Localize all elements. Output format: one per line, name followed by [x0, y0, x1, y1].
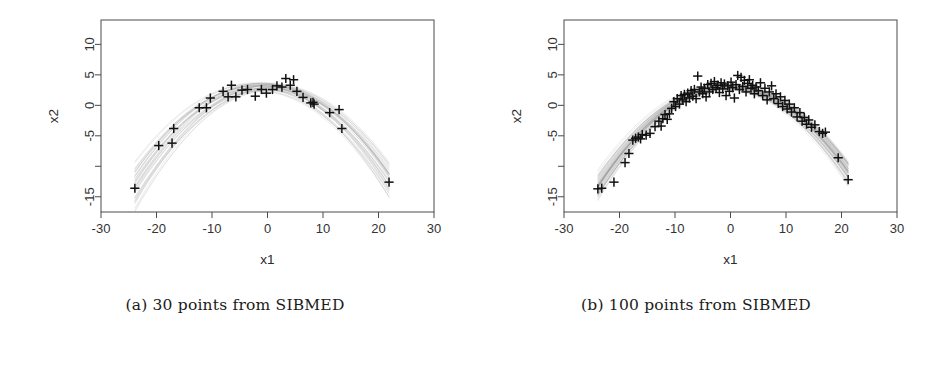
data-points — [130, 74, 393, 193]
caption-row: (a) 30 points from SIBMED (b) 100 points… — [0, 296, 933, 360]
y-axis: 1050-5-15 — [83, 37, 102, 206]
x-tick-label: 0 — [727, 221, 734, 236]
x-axis: -30-20-100102030 — [92, 212, 442, 236]
panel-b: -30-20-100102030x11050-5-15x2 — [463, 0, 929, 300]
y-tick-label: -5 — [546, 130, 561, 142]
fitted-curve — [135, 90, 389, 187]
y-tick-label: -5 — [83, 130, 98, 142]
x-tick-label: -10 — [203, 221, 222, 236]
y-tick-label: 10 — [546, 37, 561, 51]
x-tick-label: -20 — [147, 221, 166, 236]
x-tick-label: 10 — [779, 221, 793, 236]
x-tick-label: -20 — [610, 221, 629, 236]
data-point — [767, 81, 776, 90]
y-axis-title: x2 — [509, 109, 524, 123]
x-tick-label: 20 — [371, 221, 385, 236]
x-tick-label: -10 — [666, 221, 685, 236]
figure-root: -30-20-100102030x11050-5-15x2 -30-20-100… — [0, 0, 933, 372]
y-tick-label: 5 — [83, 71, 98, 78]
y-tick-label: -15 — [546, 187, 561, 206]
x-tick-label: 30 — [427, 221, 441, 236]
y-tick-label: 10 — [83, 37, 98, 51]
y-axis: 1050-5-15 — [546, 37, 565, 206]
data-point — [202, 103, 211, 112]
data-point — [756, 78, 765, 87]
y-tick-label: 0 — [546, 102, 561, 109]
data-point — [281, 74, 290, 83]
x-tick-label: 30 — [890, 221, 904, 236]
caption-panel-a: (a) 30 points from SIBMED — [2, 296, 468, 314]
x-tick-label: 10 — [316, 221, 330, 236]
data-point — [730, 93, 739, 102]
y-tick-label: -15 — [83, 187, 98, 206]
panel-a: -30-20-100102030x11050-5-15x2 — [0, 0, 466, 300]
y-tick-label: 0 — [83, 102, 98, 109]
panel-b-plot: -30-20-100102030x11050-5-15x2 — [463, 0, 929, 300]
x-axis: -30-20-100102030 — [555, 212, 905, 236]
x-axis-title: x1 — [723, 252, 737, 267]
data-point — [693, 71, 702, 80]
x-tick-label: 20 — [834, 221, 848, 236]
y-tick-label: 5 — [546, 71, 561, 78]
caption-panel-b: (b) 100 points from SIBMED — [463, 296, 929, 314]
x-tick-label: -30 — [555, 221, 574, 236]
curve-band — [135, 82, 389, 211]
panel-a-plot: -30-20-100102030x11050-5-15x2 — [0, 0, 466, 300]
fitted-curve — [135, 87, 389, 212]
x-tick-label: 0 — [264, 221, 271, 236]
x-tick-label: -30 — [92, 221, 111, 236]
y-axis-title: x2 — [46, 109, 61, 123]
x-axis-title: x1 — [260, 252, 274, 267]
